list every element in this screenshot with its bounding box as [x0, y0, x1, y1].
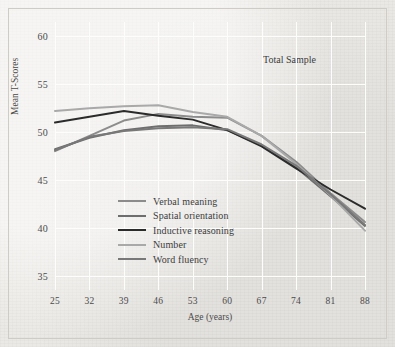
legend-label: Inductive reasoning: [153, 225, 234, 236]
y-axis-tick-label: 35: [37, 270, 48, 281]
x-axis-tick-label: 25: [50, 296, 60, 306]
figure-canvas: Mean T-Scores Age (years) Total Sample 3…: [0, 0, 395, 347]
x-axis-tick-label: 39: [119, 296, 129, 306]
legend-label: Verbal meaning: [153, 196, 217, 207]
legend-swatch: [118, 200, 146, 202]
y-axis-tick-label: 55: [37, 79, 48, 90]
legend-item[interactable]: Word fluency: [118, 252, 234, 267]
y-axis-tick-label: 40: [37, 222, 48, 233]
y-axis-tick-label: 60: [37, 31, 48, 42]
y-axis-title: Mean T-Scores: [10, 58, 20, 115]
x-axis-tick-label: 88: [360, 296, 370, 306]
legend-label: Number: [153, 239, 186, 250]
x-axis-tick-label: 67: [257, 296, 267, 306]
legend-item[interactable]: Spatial orientation: [118, 209, 234, 224]
gridline-vertical: [365, 22, 366, 290]
legend-swatch: [118, 229, 146, 231]
x-axis-tick-label: 81: [325, 296, 335, 306]
x-axis-tick-label: 46: [153, 296, 163, 306]
legend-item[interactable]: Verbal meaning: [118, 194, 234, 209]
legend: Verbal meaningSpatial orientationInducti…: [118, 194, 234, 267]
x-axis-tick-label: 32: [84, 296, 94, 306]
y-axis-tick-label: 50: [37, 127, 48, 138]
x-axis-tick-label: 74: [291, 296, 301, 306]
x-axis-tick-label: 53: [188, 296, 198, 306]
legend-item[interactable]: Number: [118, 238, 234, 253]
legend-label: Spatial orientation: [153, 210, 229, 221]
x-axis-tick-label: 60: [222, 296, 232, 306]
legend-swatch: [118, 215, 146, 217]
legend-label: Word fluency: [153, 254, 209, 265]
legend-item[interactable]: Inductive reasoning: [118, 223, 234, 238]
legend-swatch: [118, 258, 146, 260]
x-axis-title: Age (years): [55, 312, 365, 322]
legend-swatch: [118, 244, 146, 246]
y-axis-tick-label: 45: [37, 174, 48, 185]
